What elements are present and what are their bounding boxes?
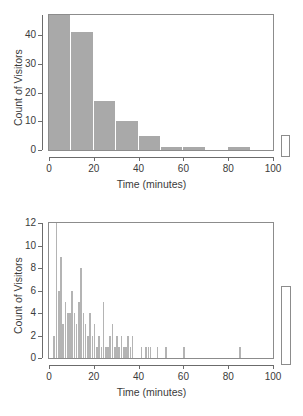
y-axis-title-top: Count of Visitors: [12, 49, 24, 126]
x-tick-label: 40: [133, 372, 144, 382]
y-tick: [38, 64, 42, 65]
x-tick: [49, 365, 50, 369]
y-axis-line-top: [42, 15, 43, 150]
histogram-bar: [49, 15, 70, 150]
chart-panel-top: 020406080100 010203040 Time (minutes) Co…: [0, 0, 303, 208]
y-axis-title-bottom: Count of Visitors: [12, 257, 24, 334]
y-tick: [38, 93, 42, 94]
x-tick-label: 0: [46, 372, 52, 382]
x-tick: [228, 365, 229, 369]
histogram-spike: [132, 336, 134, 359]
histogram-bar: [161, 147, 182, 150]
x-tick: [139, 157, 140, 161]
y-tick-label: 10: [16, 241, 36, 251]
plot-area-bottom: [49, 223, 273, 358]
histogram-bar: [183, 147, 204, 150]
y-tick: [38, 246, 42, 247]
x-tick: [139, 365, 140, 369]
chart-panel-bottom: 020406080100 024681012 Time (minutes) Co…: [0, 208, 303, 416]
x-tick: [228, 157, 229, 161]
y-tick: [38, 336, 42, 337]
x-tick-label: 0: [46, 164, 52, 174]
x-tick: [94, 365, 95, 369]
x-tick: [183, 365, 184, 369]
y-tick: [38, 268, 42, 269]
histogram-bar: [139, 136, 160, 150]
histogram-bar: [116, 121, 137, 150]
x-tick: [183, 157, 184, 161]
x-tick: [273, 157, 274, 161]
x-tick-label: 80: [223, 164, 234, 174]
figure-two-histograms: 020406080100 010203040 Time (minutes) Co…: [0, 0, 303, 416]
y-tick: [38, 291, 42, 292]
y-tick: [38, 358, 42, 359]
histogram-bar: [94, 101, 115, 150]
x-tick-label: 60: [178, 372, 189, 382]
histogram-spike: [183, 347, 185, 358]
x-tick-label: 100: [265, 372, 282, 382]
histogram-bar: [71, 32, 92, 150]
x-tick-label: 40: [133, 164, 144, 174]
y-tick-label: 0: [16, 145, 36, 155]
x-tick: [49, 157, 50, 161]
y-tick: [38, 223, 42, 224]
histogram-spike: [239, 347, 241, 358]
stray-rectangle-top: [281, 135, 290, 157]
plot-area-top: [49, 15, 273, 150]
x-axis-line-top: [49, 157, 273, 158]
y-tick: [38, 121, 42, 122]
x-tick-label: 20: [88, 164, 99, 174]
histogram-bar: [228, 147, 249, 150]
y-tick: [38, 35, 42, 36]
y-axis-line-bottom: [42, 223, 43, 358]
y-tick-label: 12: [16, 218, 36, 228]
y-tick-label: 40: [16, 30, 36, 40]
y-tick-label: 0: [16, 353, 36, 363]
x-axis-title-bottom: Time (minutes): [0, 386, 303, 398]
stray-rectangle-bottom: [281, 286, 291, 365]
histogram-spike: [141, 347, 143, 358]
x-tick: [94, 157, 95, 161]
histogram-spike: [150, 347, 152, 358]
y-tick: [38, 313, 42, 314]
x-tick: [273, 365, 274, 369]
x-tick-label: 20: [88, 372, 99, 382]
x-tick-label: 80: [223, 372, 234, 382]
y-tick: [38, 150, 42, 151]
x-axis-line-bottom: [49, 365, 273, 366]
x-tick-label: 100: [265, 164, 282, 174]
x-axis-title-top: Time (minutes): [0, 178, 303, 190]
histogram-spike: [165, 347, 167, 358]
histogram-spike: [157, 347, 159, 358]
x-tick-label: 60: [178, 164, 189, 174]
